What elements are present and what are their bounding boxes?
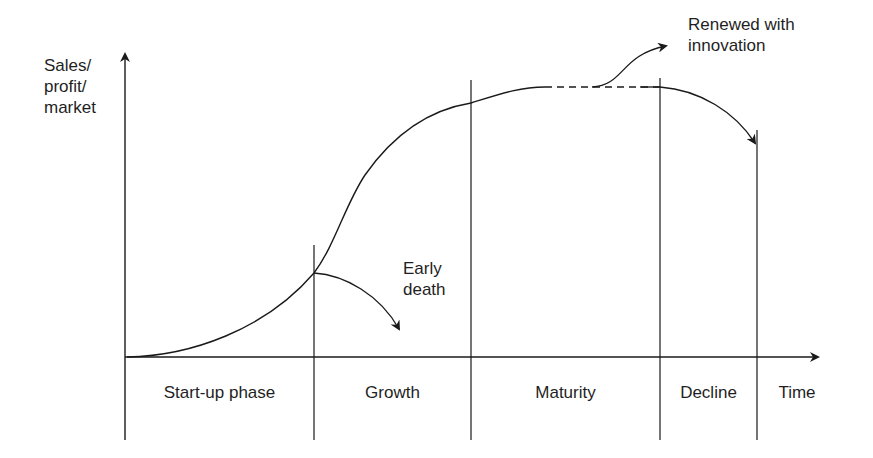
decline-arrow	[660, 87, 755, 143]
renewed-annotation: Renewed with innovation	[688, 14, 795, 56]
life-cycle-curve	[127, 87, 545, 357]
phase-label-maturity: Maturity	[471, 383, 660, 403]
phase-label-growth: Growth	[314, 383, 471, 403]
phase-label-startup: Start-up phase	[125, 383, 314, 403]
renewed-arrow	[592, 46, 666, 87]
y-axis-label: Sales/ profit/ market	[44, 55, 96, 118]
early-death-annotation: Early death	[403, 258, 446, 300]
phase-label-decline: Decline	[660, 383, 757, 403]
x-axis-label: Time	[757, 383, 837, 403]
early-death-arrow	[314, 273, 399, 329]
